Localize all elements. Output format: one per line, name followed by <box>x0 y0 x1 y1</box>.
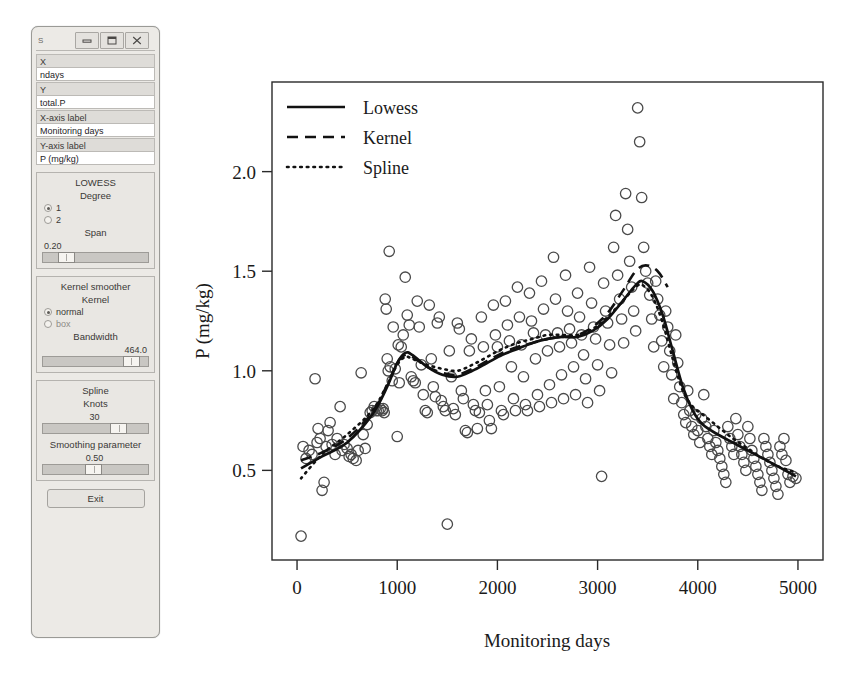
spline-group: Spline Knots 30 Smoothing parameter 0.50 <box>36 380 155 481</box>
data-point <box>444 346 454 356</box>
data-point <box>640 266 650 276</box>
data-point <box>424 300 434 310</box>
lowess-degree-option-1[interactable]: 1 <box>44 203 149 213</box>
data-point <box>360 443 370 453</box>
data-point <box>474 407 484 417</box>
kernel-bandwidth-slider[interactable] <box>42 356 149 367</box>
data-point <box>522 405 532 415</box>
data-point <box>610 210 620 220</box>
legend-label: Kernel <box>363 128 412 148</box>
data-point <box>731 413 741 423</box>
data-point <box>608 242 618 252</box>
kernel-bandwidth-label: Bandwidth <box>42 331 149 342</box>
data-point <box>520 399 530 409</box>
kernel-option-box[interactable]: box <box>44 319 149 329</box>
data-point <box>335 401 345 411</box>
data-point <box>450 409 460 419</box>
lowess-span-label: Span <box>42 227 149 238</box>
data-point <box>400 272 410 282</box>
kernel-option-normal[interactable]: normal <box>44 307 149 317</box>
data-point <box>584 262 594 272</box>
data-point <box>420 405 430 415</box>
field-group-xaxis: X-axis label Monitoring days <box>36 110 155 137</box>
field-group-x: X ndays <box>36 54 155 81</box>
minimize-icon[interactable] <box>75 32 99 49</box>
y-tick-label: 1.5 <box>232 261 256 282</box>
x-axis-label-input[interactable]: Monitoring days <box>36 123 155 137</box>
data-point <box>612 270 622 280</box>
radio-icon <box>44 320 52 328</box>
data-point <box>560 270 570 280</box>
control-window: S X ndays Y total.P X-axis label Monitor… <box>31 26 160 638</box>
spline-knots-slider[interactable] <box>42 423 149 434</box>
x-tick-label: 3000 <box>579 577 617 598</box>
data-point <box>779 433 789 443</box>
exit-button[interactable]: Exit <box>47 489 145 508</box>
data-point <box>392 431 402 441</box>
spline-knots-label: Knots <box>42 398 149 409</box>
scatter-plot: 0.51.01.52.0 010002000300040005000 Lowes… <box>185 55 850 665</box>
y-axis-label-input[interactable]: P (mg/kg) <box>36 151 155 165</box>
spline-knots-value: 30 <box>42 412 147 422</box>
data-point <box>398 330 408 340</box>
window-title-bar[interactable]: S <box>36 31 155 51</box>
data-point <box>596 471 606 481</box>
slider-handle[interactable] <box>58 252 75 263</box>
data-point <box>394 378 404 388</box>
data-point <box>598 278 608 288</box>
data-point <box>478 342 488 352</box>
data-point <box>462 427 472 437</box>
data-point <box>532 389 542 399</box>
data-point <box>536 276 546 286</box>
data-point <box>634 137 644 147</box>
data-point <box>743 421 753 431</box>
data-point <box>546 397 556 407</box>
radio-label: 1 <box>56 203 61 213</box>
data-point <box>510 405 520 415</box>
lowess-degree-label: Degree <box>42 190 149 201</box>
slider-handle[interactable] <box>85 464 102 475</box>
data-point <box>677 397 687 407</box>
y-axis-title: P (mg/kg) <box>192 283 214 359</box>
data-point <box>570 389 580 399</box>
data-point <box>538 304 548 314</box>
data-point <box>490 330 500 340</box>
data-point <box>550 294 560 304</box>
data-point <box>402 310 412 320</box>
spline-smoothing-slider[interactable] <box>42 464 149 475</box>
data-point <box>558 393 568 403</box>
data-point <box>618 338 628 348</box>
radio-label: normal <box>56 307 84 317</box>
data-point <box>534 401 544 411</box>
maximize-icon[interactable] <box>100 32 124 49</box>
slider-handle[interactable] <box>110 423 127 434</box>
x-tick-label: 4000 <box>679 577 717 598</box>
y-variable-input[interactable]: total.P <box>36 95 155 109</box>
data-point <box>636 192 646 202</box>
data-point <box>508 393 518 403</box>
radio-label: box <box>56 319 71 329</box>
data-point <box>408 376 418 386</box>
slider-handle[interactable] <box>123 356 140 367</box>
data-point <box>396 342 406 352</box>
y-tick-label: 1.0 <box>232 361 256 382</box>
close-icon[interactable] <box>125 32 149 49</box>
data-point <box>526 316 536 326</box>
y-axis-ticks: 0.51.01.52.0 <box>232 162 272 482</box>
data-point <box>622 224 632 234</box>
data-point <box>442 519 452 529</box>
data-point <box>380 294 390 304</box>
spline-title: Spline <box>42 385 149 396</box>
data-point <box>404 320 414 330</box>
data-point <box>630 326 640 336</box>
x-variable-input[interactable]: ndays <box>36 67 155 81</box>
data-point <box>296 531 306 541</box>
lowess-degree-option-2[interactable]: 2 <box>44 215 149 225</box>
data-point <box>432 318 442 328</box>
data-point <box>494 382 504 392</box>
lowess-span-slider[interactable] <box>42 252 149 263</box>
x-axis-label-label: X-axis label <box>36 110 155 123</box>
data-point <box>488 300 498 310</box>
data-point <box>514 312 524 322</box>
data-point <box>582 397 592 407</box>
